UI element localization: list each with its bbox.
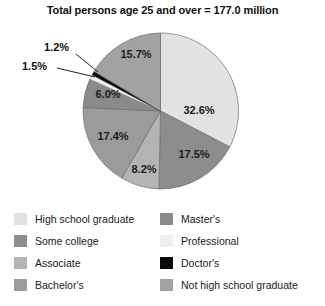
legend-label: Master's <box>181 214 220 225</box>
legend-label: Doctor's <box>181 258 219 269</box>
pie-label-masters: 6.0% <box>95 88 120 100</box>
pie-label-some-college: 17.5% <box>178 148 209 160</box>
pie-callouts: 1.2% 1.5% <box>22 41 98 77</box>
legend-item-some-college[interactable]: Some college <box>14 230 134 252</box>
legend-column-left: High school graduate Some college Associ… <box>14 208 134 296</box>
legend-swatch-icon <box>160 213 173 225</box>
pie-slices <box>83 33 239 189</box>
leader-line-professional <box>57 68 95 77</box>
legend-label: High school graduate <box>35 214 134 225</box>
pie-label-not-high-school-graduate: 15.7% <box>120 48 151 60</box>
legend-swatch-icon <box>14 235 27 247</box>
legend-item-doctors[interactable]: Doctor's <box>160 252 298 274</box>
page-title: Total persons age 25 and over = 177.0 mi… <box>0 4 325 16</box>
pie-label-high-school-graduate: 32.6% <box>183 104 214 116</box>
pie-label-doctors: 1.2% <box>44 41 69 53</box>
pie-label-bachelors: 17.4% <box>97 130 128 142</box>
legend-label: Some college <box>35 236 99 247</box>
legend-label: Associate <box>35 258 81 269</box>
legend-swatch-icon <box>160 279 173 291</box>
legend-swatch-icon <box>160 235 173 247</box>
legend-item-professional[interactable]: Professional <box>160 230 298 252</box>
legend-item-not-high-school-graduate[interactable]: Not high school graduate <box>160 274 298 296</box>
legend-item-bachelors[interactable]: Bachelor's <box>14 274 134 296</box>
pie-chart: 32.6% 17.5% 8.2% 17.4% 6.0% 15.7% 1.2% 1… <box>0 22 325 200</box>
legend-item-associate[interactable]: Associate <box>14 252 134 274</box>
legend-label: Professional <box>181 236 239 247</box>
pie-label-associate: 8.2% <box>131 163 156 175</box>
legend-swatch-icon <box>160 257 173 269</box>
legend-swatch-icon <box>14 213 27 225</box>
legend-item-masters[interactable]: Master's <box>160 208 298 230</box>
leader-line-doctors <box>76 54 98 72</box>
pie-chart-svg: 32.6% 17.5% 8.2% 17.4% 6.0% 15.7% 1.2% 1… <box>0 22 325 200</box>
legend-swatch-icon <box>14 279 27 291</box>
legend-item-high-school-graduate[interactable]: High school graduate <box>14 208 134 230</box>
legend-label: Bachelor's <box>35 280 84 291</box>
legend-column-right: Master's Professional Doctor's Not high … <box>160 208 298 296</box>
pie-label-professional: 1.5% <box>22 60 47 72</box>
legend-swatch-icon <box>14 257 27 269</box>
legend: High school graduate Some college Associ… <box>0 200 325 306</box>
legend-label: Not high school graduate <box>181 280 298 291</box>
